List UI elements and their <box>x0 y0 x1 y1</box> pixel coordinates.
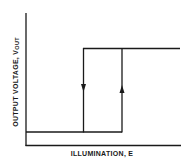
y-axis-label-subscript: OUT <box>14 37 20 50</box>
y-axis-label-main: OUTPUT VOLTAGE, V <box>12 50 20 127</box>
down-arrow-icon <box>81 84 86 92</box>
hysteresis-diagram: ILLUMINATION, E OUTPUT VOLTAGE, VOUT <box>0 0 192 167</box>
up-arrow-icon <box>120 85 125 93</box>
x-axis-label: ILLUMINATION, E <box>71 150 134 158</box>
y-axis-label: OUTPUT VOLTAGE, VOUT <box>12 37 21 127</box>
